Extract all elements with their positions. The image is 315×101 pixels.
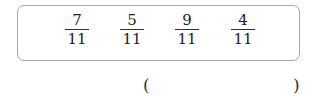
- answer-close-paren: ): [293, 75, 300, 95]
- numerator: 9: [182, 12, 192, 29]
- numerator: 7: [72, 12, 82, 29]
- fraction-2: 5 11: [119, 12, 145, 47]
- denominator: 11: [67, 30, 86, 47]
- numerator: 4: [238, 12, 248, 29]
- answer-open-paren: (: [143, 75, 150, 95]
- fraction-1: 7 11: [64, 12, 90, 47]
- answer-blank[interactable]: [155, 76, 290, 94]
- denominator: 11: [177, 30, 196, 47]
- denominator: 11: [122, 30, 141, 47]
- numerator: 5: [127, 12, 137, 29]
- fraction-4: 4 11: [230, 12, 256, 47]
- denominator: 11: [233, 30, 252, 47]
- fraction-box: [17, 5, 300, 61]
- fraction-3: 9 11: [174, 12, 200, 47]
